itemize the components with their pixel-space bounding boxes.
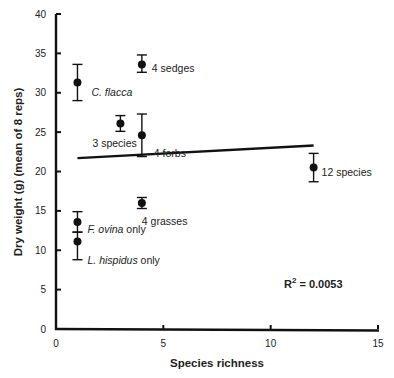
data-point: 4 sedges [137,55,195,74]
point-label: 3 species [92,137,136,149]
scatter-chart: 0510152025303540 051015 C. flaccaF. ovin… [0,0,394,378]
x-axis-line [55,329,379,331]
point-marker [73,238,81,246]
y-tick-label: 10 [35,245,47,256]
point-label: L. hispidus only [87,254,160,266]
point-label: 4 forbs [154,147,186,159]
data-point: 4 forbs [137,114,186,159]
data-point: 4 grasses [137,197,188,227]
y-tick-label: 20 [35,166,47,177]
data-point: F. ovina only [72,212,146,235]
x-tick-label: 5 [161,338,167,349]
y-tick-label: 5 [40,284,46,295]
point-label: 12 species [322,166,372,178]
data-point: C. flacca [72,64,132,100]
point-marker [310,164,318,172]
y-tick-label: 15 [35,205,47,216]
point-label: F. ovina only [87,223,146,235]
y-tick-label: 40 [35,9,47,20]
x-tick-label: 15 [372,338,384,349]
point-label: 4 sedges [152,62,195,74]
x-tick-label: 0 [53,338,59,349]
data-point: 12 species [309,153,372,181]
y-axis-title: Dry weight (g) (mean of 8 reps) [12,87,24,256]
point-marker [138,131,146,139]
point-label: C. flacca [91,86,132,98]
x-tick-label: 10 [265,338,277,349]
point-marker [73,218,81,226]
point-marker [138,60,146,68]
x-axis-title: Species richness [170,357,264,369]
data-point: 3 species [92,116,136,150]
y-tick-label: 35 [35,48,47,59]
r-squared-annotation: R2 = 0.0053 [284,276,343,290]
point-marker [138,199,146,207]
y-tick-label: 30 [35,87,47,98]
y-tick-label: 25 [35,127,47,138]
point-marker [73,79,81,87]
data-point: L. hispidus only [72,232,160,265]
point-label: 4 grasses [142,215,188,227]
y-tick-label: 0 [40,324,46,335]
data-points: C. flaccaF. ovina onlyL. hispidus only3 … [72,55,371,266]
point-marker [116,119,124,127]
